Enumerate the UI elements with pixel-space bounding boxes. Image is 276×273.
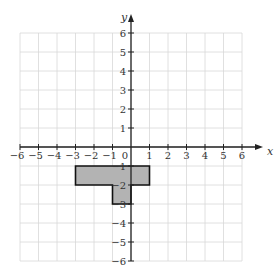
y-tick-label: 5 bbox=[120, 47, 126, 58]
x-tick-label: −2 bbox=[84, 150, 99, 161]
y-tick-label: 2 bbox=[120, 104, 126, 115]
axes bbox=[20, 14, 263, 261]
tick-labels: −6−5−4−3−2−1123456654321−1−2−3−4−5−60xy bbox=[10, 11, 274, 267]
coordinate-plane: −6−5−4−3−2−1123456654321−1−2−3−4−5−60xy bbox=[0, 0, 276, 273]
y-tick-label: −1 bbox=[111, 161, 126, 172]
y-axis-label: y bbox=[120, 11, 128, 24]
x-tick-label: −6 bbox=[10, 150, 25, 161]
x-tick-label: −5 bbox=[28, 150, 43, 161]
y-tick-label: −2 bbox=[111, 180, 126, 191]
x-axis-label: x bbox=[267, 145, 274, 158]
x-tick-label: 1 bbox=[146, 150, 152, 161]
x-axis-arrow-icon bbox=[255, 144, 263, 150]
x-tick-label: 4 bbox=[202, 150, 208, 161]
y-tick-label: −5 bbox=[111, 237, 126, 248]
x-tick-label: 5 bbox=[220, 150, 226, 161]
y-tick-label: 4 bbox=[120, 66, 126, 77]
y-tick-label: 3 bbox=[120, 85, 126, 96]
y-tick-label: −6 bbox=[111, 256, 126, 267]
y-tick-label: −3 bbox=[111, 199, 126, 210]
x-tick-label: −4 bbox=[47, 150, 62, 161]
x-tick-label: −3 bbox=[65, 150, 80, 161]
x-tick-label: 6 bbox=[239, 150, 245, 161]
x-tick-label: 3 bbox=[183, 150, 189, 161]
x-tick-label: −1 bbox=[102, 150, 117, 161]
y-tick-label: 6 bbox=[120, 28, 126, 39]
x-tick-label: 2 bbox=[165, 150, 171, 161]
y-axis-arrow-icon bbox=[128, 14, 134, 22]
origin-label: 0 bbox=[122, 150, 128, 161]
y-tick-label: 1 bbox=[120, 123, 126, 134]
y-tick-label: −4 bbox=[111, 218, 126, 229]
